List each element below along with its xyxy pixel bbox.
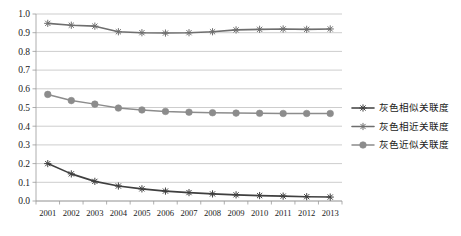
data-series [44, 91, 333, 117]
data-point-marker-star [256, 192, 263, 199]
line-chart: 0.00.10.20.30.40.50.60.70.80.91.0 200120… [0, 0, 461, 236]
data-point-marker-star [359, 123, 366, 130]
data-point-marker-star [115, 28, 122, 35]
y-axis-tick-label: 0.3 [18, 140, 30, 150]
y-axis-tick-label: 0.6 [18, 84, 30, 94]
x-axis-tick-labels: 2001200220032004200520062007200820092010… [39, 208, 339, 218]
data-point-marker-star [162, 187, 169, 194]
data-point-marker-star [138, 185, 145, 192]
y-axis-tick-label: 0.1 [18, 178, 30, 188]
data-point-marker-star [91, 23, 98, 30]
x-axis-tick-label: 2006 [157, 208, 175, 218]
data-point-marker-circle [115, 105, 122, 112]
data-series-group [44, 20, 334, 201]
data-point-marker-circle [303, 110, 310, 117]
data-point-marker-star [162, 29, 169, 36]
data-point-marker-circle [256, 110, 263, 117]
y-axis-tick-label: 1.0 [18, 9, 30, 19]
x-axis-tick-label: 2001 [39, 208, 56, 218]
data-point-marker-star [280, 193, 287, 200]
data-point-marker-star [68, 170, 75, 177]
gridlines-group [36, 14, 342, 201]
data-point-marker-circle [327, 110, 334, 117]
data-point-marker-circle [68, 97, 75, 104]
data-point-marker-circle [360, 142, 367, 149]
x-axis-tick-label: 2012 [298, 208, 315, 218]
y-axis-tick-label: 0.0 [18, 196, 30, 206]
data-point-marker-circle [92, 101, 99, 108]
data-point-marker-star [256, 26, 263, 33]
data-point-marker-circle [44, 91, 51, 98]
data-point-marker-star [209, 190, 216, 197]
legend-item[interactable]: 灰色相似关联度 [352, 102, 449, 113]
x-axis-tick-label: 2003 [86, 208, 103, 218]
data-point-marker-star [138, 29, 145, 36]
data-point-marker-circle [139, 107, 146, 114]
y-axis-tick-label: 0.4 [18, 122, 30, 132]
data-point-marker-star [303, 193, 310, 200]
legend-item-label: 灰色相近关联度 [379, 121, 449, 132]
data-point-marker-star [68, 22, 75, 29]
data-point-marker-star [280, 25, 287, 32]
x-axis-tick-label: 2013 [322, 208, 339, 218]
x-axis-tick-label: 2010 [251, 208, 268, 218]
data-point-marker-star [232, 26, 239, 33]
chart-plot-area: 0.00.10.20.30.40.50.60.70.80.91.0 200120… [0, 0, 461, 236]
x-axis-tick-label: 2011 [275, 208, 292, 218]
data-point-marker-star [44, 20, 51, 27]
data-point-marker-circle [186, 109, 193, 116]
y-axis-tick-labels: 0.00.10.20.30.40.50.60.70.80.91.0 [18, 9, 30, 206]
data-point-marker-star [91, 178, 98, 185]
data-point-marker-star [44, 160, 51, 167]
data-point-marker-star [359, 104, 366, 111]
y-axis-tick-label: 0.2 [18, 159, 30, 169]
data-point-marker-star [232, 191, 239, 198]
chart-legend: 灰色相似关联度灰色相近关联度灰色近似关联度 [352, 102, 449, 150]
y-axis-tick-label: 0.8 [18, 47, 30, 57]
x-axis-tick-label: 2002 [63, 208, 80, 218]
y-axis-tick-label: 0.5 [18, 103, 30, 113]
data-point-marker-circle [280, 110, 287, 117]
data-series [44, 160, 334, 201]
data-point-marker-star [115, 182, 122, 189]
legend-item-label: 灰色相似关联度 [379, 102, 449, 113]
legend-item-label: 灰色近似关联度 [379, 139, 449, 150]
data-point-marker-star [327, 193, 334, 200]
data-point-marker-star [185, 189, 192, 196]
data-point-marker-circle [233, 110, 240, 117]
y-axis-tick-label: 0.9 [18, 28, 30, 38]
x-axis-tick-label: 2007 [180, 208, 198, 218]
data-point-marker-circle [162, 108, 169, 115]
data-series [44, 20, 334, 37]
legend-item[interactable]: 灰色近似关联度 [352, 139, 449, 150]
x-axis-tick-label: 2004 [110, 208, 128, 218]
x-axis-tick-label: 2009 [227, 208, 244, 218]
data-point-marker-star [327, 25, 334, 32]
x-axis-tick-label: 2008 [204, 208, 221, 218]
x-axis-tick-label: 2005 [133, 208, 150, 218]
data-point-marker-star [185, 29, 192, 36]
data-point-marker-star [209, 28, 216, 35]
data-point-marker-star [303, 26, 310, 33]
chart-container: 0.00.10.20.30.40.50.60.70.80.91.0 200120… [0, 0, 461, 236]
data-point-marker-circle [209, 109, 216, 116]
y-axis-tick-label: 0.7 [18, 65, 30, 75]
legend-item[interactable]: 灰色相近关联度 [352, 121, 449, 132]
